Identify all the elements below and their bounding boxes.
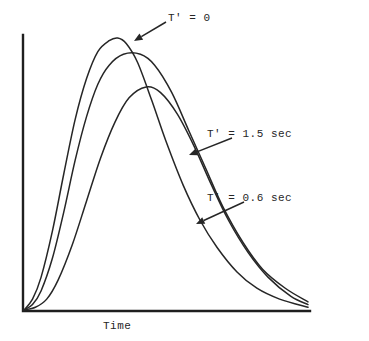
series-curve-2 [24,53,308,310]
series-curves-group [24,38,308,310]
annotation-label-t-0: T' = 0 [168,12,211,24]
chart-figure: T' = 0 T' = 1.5 sec T' = 0.6 sec Time [0,0,369,341]
axis-lines [23,35,310,311]
x-axis-label: Time [103,320,131,332]
annotation-label-t-1-5-sec: T' = 1.5 sec [207,128,292,140]
axes-group [23,35,310,311]
series-curve-1 [24,38,308,310]
annotation-arrow-line-2 [197,138,232,152]
annotation-arrow-head-1 [134,34,143,41]
line-chart-plot [0,0,369,341]
annotation-arrow-line-1 [141,22,166,37]
annotation-arrow-line-3 [204,202,244,220]
annotation-label-t-0-6-sec: T' = 0.6 sec [207,192,292,204]
